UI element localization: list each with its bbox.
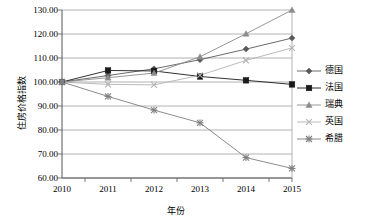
legend-marker-triangle-icon	[296, 98, 322, 112]
series-line-英国	[62, 48, 292, 85]
x-axis-title: 年份	[62, 204, 290, 217]
legend-marker-asterisk-icon	[296, 132, 322, 146]
data-point-asterisk	[306, 135, 313, 142]
chart-legend: 德国法国瑞典英国希腊	[296, 62, 368, 147]
data-point-diamond	[289, 35, 295, 41]
data-point-square	[105, 68, 111, 74]
series-line-德国	[62, 38, 292, 82]
legend-item-法国[interactable]: 法国	[296, 79, 368, 96]
legend-label: 德国	[322, 66, 343, 75]
x-axis-tick-labels: 201020112012201320142015	[0, 184, 370, 200]
data-point-triangle	[197, 54, 203, 60]
x-tick-label: 2015	[272, 184, 312, 194]
legend-item-希腊[interactable]: 希腊	[296, 130, 368, 147]
series-line-希腊	[62, 82, 292, 168]
legend-label: 英国	[322, 117, 343, 126]
data-point-diamond	[306, 68, 312, 74]
housing-price-index-line-chart: 住房价格指数 60.0070.0080.0090.00100.00110.001…	[0, 0, 370, 224]
x-tick-label: 2011	[88, 184, 128, 194]
legend-item-德国[interactable]: 德国	[296, 62, 368, 79]
legend-marker-square-icon	[296, 81, 322, 95]
data-point-asterisk	[243, 154, 250, 161]
legend-marker-diamond-icon	[296, 64, 322, 78]
legend-item-英国[interactable]: 英国	[296, 113, 368, 130]
legend-label: 希腊	[322, 134, 343, 143]
legend-item-瑞典[interactable]: 瑞典	[296, 96, 368, 113]
data-point-square	[243, 78, 249, 84]
x-tick-label: 2013	[180, 184, 220, 194]
x-tick-label: 2010	[42, 184, 82, 194]
data-point-triangle	[243, 31, 249, 37]
data-point-asterisk	[105, 93, 112, 100]
data-point-square	[306, 85, 312, 91]
data-point-asterisk	[289, 165, 296, 172]
legend-label: 瑞典	[322, 100, 343, 109]
data-point-asterisk	[197, 119, 204, 126]
data-point-asterisk	[151, 107, 158, 114]
x-tick-label: 2012	[134, 184, 174, 194]
data-point-asterisk	[59, 79, 66, 86]
legend-label: 法国	[322, 83, 343, 92]
x-tick-label: 2014	[226, 184, 266, 194]
legend-marker-cross-icon	[296, 115, 322, 129]
data-point-square	[289, 82, 295, 88]
data-point-diamond	[243, 46, 249, 52]
